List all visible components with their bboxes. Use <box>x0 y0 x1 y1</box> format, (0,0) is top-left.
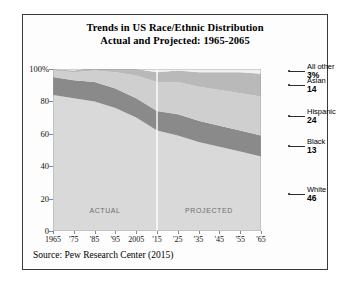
y-tick-label: 100% <box>29 64 49 74</box>
x-tick-label: '75 <box>69 235 78 244</box>
y-tick-mark <box>49 69 53 70</box>
x-tick-mark <box>157 231 158 234</box>
y-tick-label: 60 <box>41 129 50 139</box>
x-tick-mark <box>136 231 137 234</box>
x-tick-label: '45 <box>215 235 224 244</box>
x-tick-label: '15 <box>152 235 161 244</box>
legend-item-value: 13 <box>307 146 325 156</box>
legend-leader-dot <box>288 115 290 117</box>
x-tick-mark <box>115 231 116 234</box>
chart-title-line-2: Actual and Projected: 1965-2065 <box>23 35 327 48</box>
legend-leader-dot <box>288 193 290 195</box>
x-tick-mark <box>74 231 75 234</box>
y-tick-label: 20 <box>41 194 50 204</box>
chart-title-line-1: Trends in US Race/Ethnic Distribution <box>23 22 327 35</box>
plot-area: 020406080100% 1965'75'85'952005'15'25'35… <box>53 69 261 231</box>
y-tick-mark <box>49 166 53 167</box>
y-tick-mark <box>49 134 53 135</box>
legend-item-hispanic[interactable]: Hispanic24 <box>307 107 336 126</box>
legend-leader-line <box>289 71 305 72</box>
legend-item-black[interactable]: Black13 <box>307 137 325 156</box>
legend-item-value: 14 <box>307 85 326 95</box>
chart-legend: All other3%Asian14Hispanic24Black13White… <box>289 63 351 243</box>
legend-item-value: 46 <box>307 193 326 203</box>
legend-item-value: 24 <box>307 116 336 126</box>
y-tick-label: 40 <box>41 161 50 171</box>
legend-leader-dot <box>288 145 290 147</box>
legend-leader-line <box>289 85 305 86</box>
x-tick-mark <box>219 231 220 234</box>
x-tick-label: '35 <box>194 235 203 244</box>
x-tick-mark <box>178 231 179 234</box>
x-tick-label: 1965 <box>45 235 61 244</box>
chart-figure: Trends in US Race/Ethnic Distribution Ac… <box>22 14 328 270</box>
x-tick-mark <box>240 231 241 234</box>
legend-leader-line <box>289 116 305 117</box>
x-tick-label: 2005 <box>128 235 144 244</box>
legend-leader-line <box>289 194 305 195</box>
annotation-actual: ACTUAL <box>89 206 120 213</box>
x-tick-label: '65 <box>256 235 265 244</box>
y-tick-mark <box>49 101 53 102</box>
x-tick-label: '85 <box>90 235 99 244</box>
y-tick-label: 80 <box>41 96 50 106</box>
y-tick-mark <box>49 199 53 200</box>
legend-leader-dot <box>288 84 290 86</box>
legend-item-asian[interactable]: Asian14 <box>307 76 326 95</box>
chart-title: Trends in US Race/Ethnic Distribution Ac… <box>23 22 327 47</box>
source-note: Source: Pew Research Center (2015) <box>33 250 173 260</box>
legend-leader-line <box>289 146 305 147</box>
x-tick-label: '95 <box>111 235 120 244</box>
x-tick-label: '55 <box>235 235 244 244</box>
x-tick-mark <box>53 231 54 234</box>
x-tick-label: '25 <box>173 235 182 244</box>
annotation-projected: PROJECTED <box>185 206 233 213</box>
x-tick-mark <box>261 231 262 234</box>
x-tick-mark <box>95 231 96 234</box>
legend-item-white[interactable]: White46 <box>307 184 326 203</box>
legend-leader-dot <box>288 70 290 72</box>
x-tick-mark <box>199 231 200 234</box>
